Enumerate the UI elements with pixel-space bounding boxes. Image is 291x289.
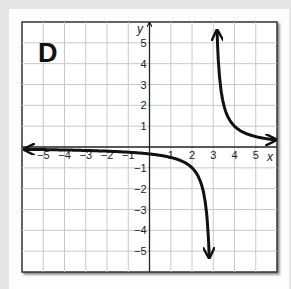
x-tick-label: 5 <box>253 149 259 161</box>
y-tick-label: 5 <box>140 37 146 49</box>
y-tick-label: −2 <box>134 183 147 195</box>
x-axis-label: x <box>266 150 274 164</box>
y-tick-label: −5 <box>134 245 147 257</box>
y-tick-label: −3 <box>134 204 147 216</box>
y-axis-label: y <box>136 22 144 36</box>
y-tick-label: 4 <box>140 58 146 70</box>
y-tick-label: 3 <box>140 79 146 91</box>
function-graph: −5−4−3−2−11234554321−1−2−3−4−5 D y x <box>0 0 291 289</box>
x-tick-label: 4 <box>231 149 237 161</box>
y-tick-label: 1 <box>140 120 146 132</box>
y-tick-label: −1 <box>134 162 147 174</box>
y-tick-label: 2 <box>140 99 146 111</box>
y-tick-label: −4 <box>134 224 147 236</box>
x-tick-label: 3 <box>210 149 216 161</box>
x-tick-label: 2 <box>189 149 195 161</box>
panel-label: D <box>38 38 58 68</box>
